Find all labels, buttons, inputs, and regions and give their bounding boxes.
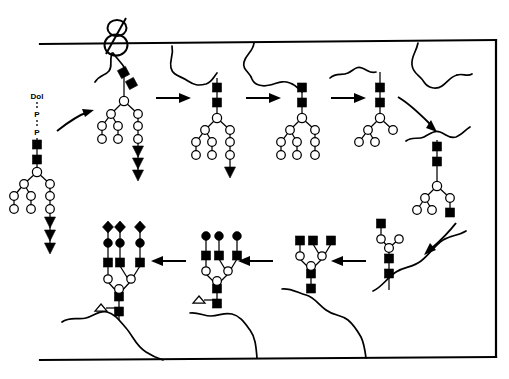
structure-mannose-trimmed-glycan	[277, 83, 320, 159]
galactose-circle	[104, 239, 113, 248]
mannose-circle	[286, 126, 295, 135]
polypeptide-chain-5b	[457, 74, 472, 75]
glucose-triangle	[225, 167, 236, 178]
mannose-circle	[428, 206, 437, 215]
mannose-circle	[226, 138, 235, 147]
mannose-circle	[114, 135, 123, 144]
glcnac-square	[136, 258, 145, 267]
glcnac-square	[307, 284, 316, 293]
polypeptide-chain-6	[406, 127, 470, 141]
nascent-polypeptide-chains	[95, 43, 472, 141]
mannose-circle	[277, 151, 286, 160]
galactose-circle	[136, 239, 145, 248]
mannose-circle	[27, 192, 36, 201]
mannose-circle	[432, 181, 441, 190]
glcnac-square	[215, 251, 224, 260]
dol-label: Dol	[31, 92, 44, 101]
membrane-top-line	[40, 40, 496, 44]
arrow-trim2-to-trim3	[331, 93, 366, 103]
glcnac-square	[296, 236, 305, 245]
glcnac-square	[202, 251, 211, 260]
glcnac-square	[116, 258, 125, 267]
mannose-circle	[10, 205, 19, 214]
mannose-circle	[297, 113, 306, 122]
polypeptide-chain-4	[330, 67, 376, 78]
mannose-circle	[10, 192, 19, 201]
mannose-circle	[212, 113, 221, 122]
glucose-triangle	[45, 243, 56, 254]
mannose-circle	[20, 180, 29, 189]
mannose-circle	[107, 110, 116, 119]
mannose-circle	[375, 113, 384, 122]
mannose-circle	[134, 135, 143, 144]
mannose-circle	[385, 244, 394, 253]
arrow-galact-to-sialyl	[151, 256, 186, 266]
glcnac-square	[213, 299, 222, 308]
mannose-circle	[192, 138, 201, 147]
structure-triantennary-glcnac-glycan	[296, 236, 336, 293]
structure-galactosylated-glycan	[193, 232, 242, 308]
mannose-circle	[119, 96, 128, 105]
arrow-donor-to-transfer	[57, 109, 94, 131]
arrow-triantenna-to-galact	[238, 256, 273, 266]
mannose-circle	[114, 122, 123, 131]
glucose-triangle	[133, 170, 144, 181]
mannose-circle	[27, 205, 36, 214]
glucose-triangle	[133, 146, 144, 157]
structure-dolichol-pp-donor: Dol P P	[10, 92, 56, 254]
glucose-triangle	[133, 158, 144, 169]
mannose-circle	[226, 151, 235, 160]
mannose-circle	[202, 267, 210, 275]
mannose-circle	[395, 235, 403, 243]
fucose-triangle	[95, 304, 107, 311]
mannose-circle	[293, 151, 302, 160]
glcnac-square	[309, 236, 318, 245]
ribosome-icon	[105, 18, 128, 56]
fucose-triangle	[193, 296, 205, 303]
polypeptide-chain-3	[244, 43, 302, 92]
glcnac-square	[213, 98, 222, 107]
structure-glcnac-added-glycan	[413, 140, 455, 217]
glcnac-square	[33, 155, 42, 164]
mannose-circle	[127, 275, 135, 283]
mannose-circle	[311, 151, 320, 160]
glcnac-square	[433, 142, 442, 151]
membrane-bottom-line	[40, 357, 496, 360]
arrow-glcnac2-to-triantenna	[331, 256, 366, 266]
mannose-circle	[134, 110, 143, 119]
mannose-circle	[355, 138, 364, 147]
glcnac-square	[385, 254, 394, 263]
mannose-circle	[311, 138, 320, 147]
arrow-trim3-to-glcnac1	[398, 97, 437, 132]
mannose-circle	[421, 194, 430, 203]
sialic-acid-diamond	[115, 221, 126, 233]
sialic-acid-diamond	[135, 221, 146, 233]
arrow-glcnac1-to-glcnac2	[424, 223, 456, 255]
mannose-circle	[377, 235, 385, 243]
glycosylation-pathway-diagram: Dol P P	[0, 0, 509, 379]
mannose-circle	[364, 126, 373, 135]
mannose-circle	[213, 277, 222, 286]
mannose-circle	[389, 126, 398, 135]
structure-sialylated-complex-glycan	[95, 221, 146, 320]
mannose-circle	[208, 138, 217, 147]
polypeptide-chain-10	[62, 312, 163, 360]
glcnac-square	[213, 83, 222, 92]
mannose-circle	[115, 285, 124, 294]
glcnac-square	[377, 219, 386, 228]
mannose-circle	[318, 252, 326, 260]
polypeptide-chain-9	[190, 313, 257, 358]
mannose-circle	[46, 205, 55, 214]
mannose-circle	[201, 126, 210, 135]
glucose-triangle	[45, 230, 56, 241]
polypeptide-chain-8	[282, 289, 366, 358]
mannose-circle	[293, 138, 302, 147]
glcnac-square	[298, 98, 307, 107]
galactose-circle	[215, 232, 224, 241]
glcnac-square	[376, 98, 385, 107]
mannose-circle	[192, 151, 201, 160]
structure-transferred-glycoprotein	[98, 66, 144, 181]
mannose-circle	[224, 267, 232, 275]
mannose-circle	[98, 122, 107, 131]
mannose-circle	[277, 138, 286, 147]
